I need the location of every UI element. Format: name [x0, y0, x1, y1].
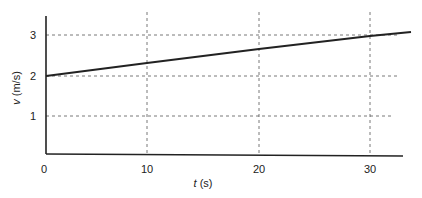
x-axis [46, 154, 403, 156]
y-axis-label: v (m/s) [10, 71, 22, 105]
x-tick-20: 20 [253, 163, 265, 175]
grid-horizontal [46, 35, 398, 116]
y-tick-2: 2 [30, 70, 36, 82]
velocity-line [46, 32, 411, 76]
y-axis-unit: (m/s) [10, 71, 22, 99]
grid-vertical [147, 12, 370, 154]
velocity-time-chart: 3 2 1 0 10 20 30 t (s) v (m/s) [0, 0, 422, 198]
x-tick-0: 0 [41, 163, 47, 175]
y-tick-1: 1 [30, 110, 36, 122]
x-axis-unit: (s) [197, 177, 213, 189]
x-tick-30: 30 [364, 163, 376, 175]
x-axis-label: t (s) [194, 177, 213, 189]
y-tick-3: 3 [30, 29, 36, 41]
x-tick-10: 10 [141, 163, 153, 175]
